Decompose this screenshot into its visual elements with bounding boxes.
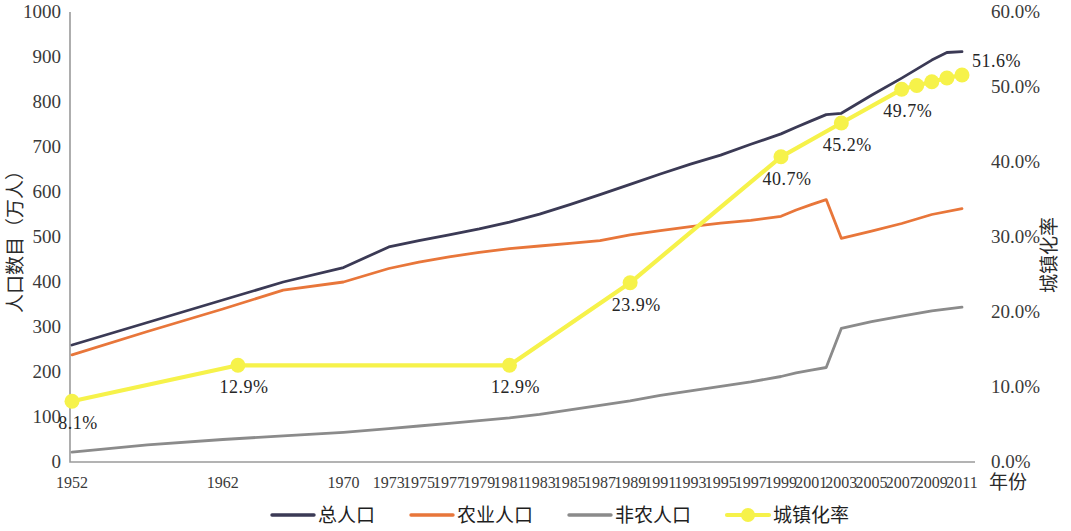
y-tick-label-right: 10.0% [991,376,1040,397]
x-tick-label: 1975 [403,474,435,491]
y-tick-label-left: 800 [33,91,62,112]
data-point-label: 40.7% [762,169,811,189]
data-point-marker [773,149,788,164]
x-tick-label: 1952 [56,474,88,491]
legend-label: 农业人口 [457,505,533,526]
y-tick-label-left: 700 [33,136,62,157]
data-point-marker [894,82,909,97]
data-point-label: 51.6% [972,51,1021,71]
x-tick-label: 1995 [705,474,737,491]
data-point-marker [623,275,638,290]
y-tick-label-right: 0.0% [991,451,1031,472]
series-2 [72,200,962,355]
y-tick-label-left: 300 [33,316,62,337]
x-tick-label: 2011 [946,474,977,491]
x-tick-label: 1985 [554,474,586,491]
series-4: 8.1%12.9%12.9%23.9%40.7%45.2%49.7%51.6% [58,51,1021,433]
x-tick-label: 1997 [735,474,767,491]
series-line [72,75,962,401]
y-tick-label-right: 30.0% [991,226,1040,247]
x-tick-label: 1970 [328,474,360,491]
x-tick-label: 2003 [825,474,857,491]
x-tick-label: 1991 [644,474,676,491]
y-tick-label-left: 1000 [23,1,61,22]
legend-item-2[interactable]: 农业人口 [411,505,533,526]
chart-canvas: 010020030040050060070080090010000.0%10.0… [0,0,1071,531]
data-point-marker [230,358,245,373]
y-tick-label-right: 20.0% [991,301,1040,322]
data-point-label: 23.9% [612,295,661,315]
legend-label: 城镇化率 [773,505,849,526]
data-point-label: 49.7% [883,101,932,121]
legend-label: 非农人口 [615,505,691,526]
x-tick-label: 2009 [916,474,948,491]
x-axis-ticks: 1952196219701973197519771979198119831985… [56,472,1027,493]
y-tick-label-left: 500 [33,226,62,247]
population-urbanization-chart: 010020030040050060070080090010000.0%10.0… [0,0,1071,531]
x-axis-title: 年份 [989,472,1027,493]
legend-item-1[interactable]: 总人口 [272,505,375,526]
data-point-label: 12.9% [491,377,540,397]
data-point-label: 12.9% [219,377,268,397]
x-tick-label: 1962 [207,474,239,491]
y-tick-label-right: 60.0% [991,1,1040,22]
data-point-marker [955,68,970,83]
legend: 总人口农业人口非农人口城镇化率 [272,505,849,526]
y-tick-label-left: 600 [33,181,62,202]
legend-marker-icon [741,508,755,522]
y-tick-label-right: 50.0% [991,76,1040,97]
y-tick-label-left: 900 [33,46,62,67]
x-tick-label: 1989 [614,474,646,491]
data-point-marker [909,78,924,93]
series-line [72,52,962,345]
data-point-label: 45.2% [823,135,872,155]
x-tick-label: 1999 [765,474,797,491]
data-point-marker [939,71,954,86]
y-axis-title-right: 城镇化率 [1039,217,1060,293]
data-point-marker [502,358,517,373]
x-tick-label: 1993 [674,474,706,491]
legend-label: 总人口 [318,505,375,526]
x-tick-label: 1979 [463,474,495,491]
legend-item-3[interactable]: 非农人口 [569,505,691,526]
y-tick-label-left: 100 [33,406,62,427]
data-point-marker [65,394,80,409]
data-point-marker [834,116,849,131]
x-tick-label: 1977 [433,474,465,491]
x-tick-label: 2007 [886,474,918,491]
data-point-marker [924,74,939,89]
y-tick-label-left: 0 [52,451,62,472]
y-tick-label-right: 40.0% [991,151,1040,172]
y-axis-left-ticks: 01002003004005006007008009001000 [23,1,61,472]
x-tick-label: 1983 [524,474,556,491]
y-axis-title-left: 人口数目（万人） [5,161,26,313]
x-tick-label: 2005 [855,474,887,491]
series-1 [72,52,962,345]
x-tick-label: 1973 [373,474,405,491]
y-axis-right-ticks: 0.0%10.0%20.0%30.0%40.0%50.0%60.0% [991,1,1040,472]
data-point-label: 8.1% [58,413,98,433]
x-tick-label: 2001 [795,474,827,491]
y-tick-label-left: 400 [33,271,62,292]
x-tick-label: 1987 [584,474,616,491]
legend-item-4[interactable]: 城镇化率 [727,505,849,526]
series-line [72,200,962,355]
x-tick-label: 1981 [493,474,525,491]
y-tick-label-left: 200 [33,361,62,382]
